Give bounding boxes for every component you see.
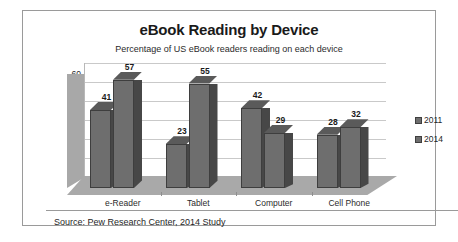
legend-item-2011[interactable]: 2011	[415, 115, 443, 125]
x-axis-label-cell-phone: Cell Phone	[328, 198, 370, 208]
bar-computer-2014	[264, 133, 285, 188]
legend-label: 2014	[424, 134, 443, 144]
bar-tablet-2014	[189, 84, 210, 189]
bar-computer-2011	[241, 108, 262, 188]
bar-value-label: 29	[276, 115, 285, 125]
legend-item-2014[interactable]: 2014	[415, 134, 443, 144]
bar-series-container: 4157235542292832	[84, 74, 386, 188]
chart-title: eBook Reading by Device	[23, 21, 435, 38]
bar-value-label: 55	[200, 66, 209, 76]
x-axis-tick-mark	[161, 192, 162, 196]
bar-side-face	[210, 84, 218, 189]
bar-front-face	[264, 133, 285, 188]
bar-top-face	[241, 100, 270, 108]
bar-e-reader-2011	[90, 110, 111, 188]
plot-side-wall	[67, 74, 84, 188]
chart-legend: 20112014	[415, 115, 443, 153]
bar-front-face	[317, 135, 338, 188]
source-note: Source: Pew Research Center, 2014 Study	[54, 217, 226, 227]
bar-side-face	[134, 80, 142, 188]
legend-swatch-icon	[415, 117, 422, 124]
bar-top-face	[189, 76, 218, 84]
x-axis-tick-mark	[236, 192, 237, 196]
bar-cell-phone-2011	[317, 135, 338, 188]
bar-front-face	[189, 84, 210, 189]
bar-front-face	[340, 127, 361, 188]
chart-frame: eBook Reading by Device Percentage of US…	[22, 10, 436, 226]
chart-figure: eBook Reading by Device Percentage of US…	[0, 0, 458, 242]
bar-side-face	[285, 133, 293, 188]
bar-value-label: 57	[125, 62, 134, 72]
chart-subtitle: Percentage of US eBook readers reading o…	[23, 44, 435, 54]
bar-front-face	[113, 80, 134, 188]
x-axis-label-computer: Computer	[255, 198, 292, 208]
x-axis-tick-mark	[312, 192, 313, 196]
bar-tablet-2011	[166, 144, 187, 188]
legend-label: 2011	[424, 115, 442, 125]
bar-value-label: 23	[177, 126, 186, 136]
bar-front-face	[166, 144, 187, 188]
x-axis-label-tablet: Tablet	[187, 198, 210, 208]
x-axis-labels: e-ReaderTabletComputerCell Phone	[58, 196, 398, 210]
source-divider	[46, 210, 458, 211]
bar-front-face	[241, 108, 262, 188]
bar-side-face	[361, 127, 369, 188]
legend-swatch-icon	[415, 136, 422, 143]
bar-value-label: 28	[328, 117, 337, 127]
bar-cell-phone-2014	[340, 127, 361, 188]
plot-area: 0102030405060 4157235542292832	[58, 63, 398, 194]
bar-front-face	[90, 110, 111, 188]
bar-top-face	[340, 119, 369, 127]
bar-e-reader-2014	[113, 80, 134, 188]
bar-value-label: 32	[351, 109, 360, 119]
x-axis-label-e-reader: e-Reader	[105, 198, 140, 208]
bar-value-label: 42	[253, 90, 262, 100]
bar-value-label: 41	[102, 92, 111, 102]
